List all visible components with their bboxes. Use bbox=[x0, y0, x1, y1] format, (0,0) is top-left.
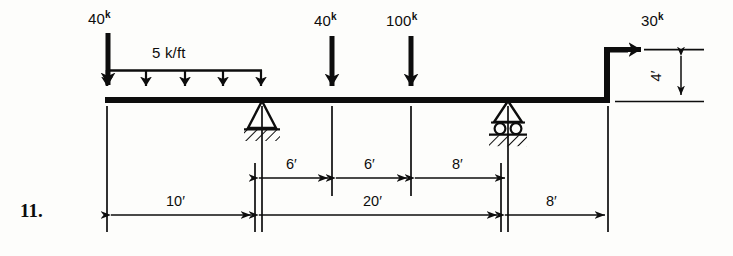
dimension-label-8ft-lower: 8′ bbox=[546, 193, 557, 209]
dimension-label-8ft-upper: 8′ bbox=[452, 156, 463, 172]
udl-label: 5 k/ft bbox=[152, 44, 186, 61]
dimension-label-6ft-b: 6′ bbox=[364, 156, 375, 172]
load-label-40-left-value: 40 bbox=[88, 10, 105, 27]
distributed-load-udl bbox=[107, 70, 262, 86]
dimension-label-20ft: 20′ bbox=[363, 193, 382, 209]
dimension-label-6ft-a: 6′ bbox=[286, 156, 297, 172]
load-label-30-top-value: 30 bbox=[641, 12, 658, 29]
load-label-100-mid-unit: k bbox=[412, 11, 418, 22]
dimension-label-4ft: 4′ bbox=[648, 71, 664, 82]
beam-diagram-figure: 11. 40k 5 k/ft 40k 100k 30k 4′ 6′ 6′ 8′ … bbox=[0, 0, 733, 256]
load-label-40-mid-unit: k bbox=[331, 11, 337, 22]
problem-number: 11. bbox=[20, 200, 43, 222]
load-label-100-mid: 100k bbox=[386, 12, 417, 29]
load-label-40-left-unit: k bbox=[105, 9, 111, 20]
load-label-30-top: 30k bbox=[641, 12, 664, 29]
dimension-label-10ft: 10′ bbox=[166, 193, 185, 209]
load-label-40-left: 40k bbox=[88, 10, 111, 27]
load-label-40-mid: 40k bbox=[314, 12, 337, 29]
extension-lines bbox=[107, 106, 608, 232]
diagram-canvas bbox=[0, 0, 733, 256]
load-label-40-mid-value: 40 bbox=[314, 12, 331, 29]
load-label-100-mid-value: 100 bbox=[386, 12, 412, 29]
load-label-30-top-unit: k bbox=[658, 11, 664, 22]
